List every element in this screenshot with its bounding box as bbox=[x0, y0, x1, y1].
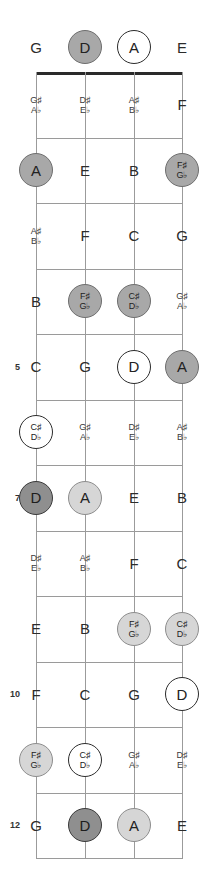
fret-wire-9 bbox=[36, 662, 183, 663]
note-label: F bbox=[31, 687, 40, 702]
note-fret0-string-G: G bbox=[19, 30, 53, 64]
nut bbox=[36, 72, 183, 75]
note-label: G bbox=[30, 818, 42, 833]
fret-wire-11 bbox=[36, 793, 183, 794]
note-label: F bbox=[80, 228, 89, 243]
note-fret8-string-A: F bbox=[117, 546, 151, 580]
string-A bbox=[134, 72, 135, 858]
note-label: G bbox=[176, 228, 188, 243]
note-label: B bbox=[177, 490, 187, 505]
note-fret12-string-D[interactable]: D bbox=[68, 808, 102, 842]
note-fret10-string-E[interactable]: D bbox=[165, 677, 199, 711]
note-label: F bbox=[177, 97, 186, 112]
note-fret10-string-G: F bbox=[19, 677, 53, 711]
note-fret6-string-D: G♯A♭ bbox=[68, 415, 102, 449]
note-label: G♯A♭ bbox=[176, 291, 188, 311]
note-fret7-string-G[interactable]: D bbox=[19, 481, 53, 515]
note-label: E bbox=[129, 490, 139, 505]
fret-number-5: 5 bbox=[0, 362, 20, 372]
note-fret5-string-A[interactable]: D bbox=[117, 350, 151, 384]
fret-wire-1 bbox=[36, 138, 183, 139]
note-label: A bbox=[80, 490, 90, 505]
note-label: F♯G♭ bbox=[30, 750, 41, 770]
note-label: C♯D♭ bbox=[31, 422, 42, 442]
note-fret6-string-G[interactable]: C♯D♭ bbox=[19, 415, 53, 449]
string-D bbox=[85, 72, 86, 858]
note-fret3-string-E: G bbox=[165, 219, 199, 253]
note-fret6-string-A: D♯E♭ bbox=[117, 415, 151, 449]
fret-number-12: 12 bbox=[0, 820, 20, 830]
fret-wire-5 bbox=[36, 400, 183, 401]
note-fret1-string-E: F bbox=[165, 88, 199, 122]
note-fret9-string-G: E bbox=[19, 612, 53, 646]
fret-wire-2 bbox=[36, 203, 183, 204]
note-label: A bbox=[129, 40, 139, 55]
note-label: C bbox=[129, 228, 140, 243]
note-label: B bbox=[80, 621, 90, 636]
note-label: C♯D♭ bbox=[177, 619, 188, 639]
note-fret0-string-A[interactable]: A bbox=[117, 30, 151, 64]
note-fret11-string-G[interactable]: F♯G♭ bbox=[19, 743, 53, 777]
note-label: D bbox=[129, 359, 140, 374]
note-fret4-string-E: G♯A♭ bbox=[165, 284, 199, 318]
note-fret5-string-E[interactable]: A bbox=[165, 350, 199, 384]
note-fret11-string-D[interactable]: C♯D♭ bbox=[68, 743, 102, 777]
note-fret6-string-E: A♯B♭ bbox=[165, 415, 199, 449]
note-fret1-string-G: G♯A♭ bbox=[19, 88, 53, 122]
note-label: F♯G♭ bbox=[128, 619, 139, 639]
note-fret0-string-E: E bbox=[165, 30, 199, 64]
note-label: B bbox=[129, 163, 139, 178]
note-label: C bbox=[177, 556, 188, 571]
fret-wire-10 bbox=[36, 727, 183, 728]
note-label: C bbox=[31, 359, 42, 374]
note-label: D bbox=[31, 490, 42, 505]
note-fret12-string-G: G bbox=[19, 808, 53, 842]
note-fret9-string-D: B bbox=[68, 612, 102, 646]
note-label: G bbox=[128, 687, 140, 702]
note-label: E bbox=[31, 621, 41, 636]
note-label: G♯A♭ bbox=[30, 95, 42, 115]
note-label: D♯E♭ bbox=[80, 95, 91, 115]
note-fret0-string-D[interactable]: D bbox=[68, 30, 102, 64]
note-fret11-string-E: D♯E♭ bbox=[165, 743, 199, 777]
note-fret4-string-D[interactable]: F♯G♭ bbox=[68, 284, 102, 318]
note-fret4-string-G: B bbox=[19, 284, 53, 318]
note-label: G♯A♭ bbox=[79, 422, 91, 442]
note-label: F♯G♭ bbox=[176, 160, 187, 180]
note-label: D bbox=[80, 818, 91, 833]
note-label: A♯B♭ bbox=[129, 95, 140, 115]
note-fret11-string-A: G♯A♭ bbox=[117, 743, 151, 777]
note-fret8-string-E: C bbox=[165, 546, 199, 580]
note-label: E bbox=[80, 163, 90, 178]
note-fret1-string-A: A♯B♭ bbox=[117, 88, 151, 122]
fret-wire-7 bbox=[36, 531, 183, 532]
note-fret2-string-E[interactable]: F♯G♭ bbox=[165, 153, 199, 187]
note-fret3-string-D: F bbox=[68, 219, 102, 253]
note-fret12-string-E: E bbox=[165, 808, 199, 842]
note-fret10-string-A: G bbox=[117, 677, 151, 711]
note-fret3-string-G: A♯B♭ bbox=[19, 219, 53, 253]
fret-wire-3 bbox=[36, 269, 183, 270]
note-label: D bbox=[177, 687, 188, 702]
note-fret8-string-G: D♯E♭ bbox=[19, 546, 53, 580]
note-label: C♯D♭ bbox=[80, 750, 91, 770]
note-fret4-string-A[interactable]: C♯D♭ bbox=[117, 284, 151, 318]
fret-wire-12 bbox=[36, 858, 183, 859]
fret-wire-6 bbox=[36, 465, 183, 466]
note-fret9-string-A[interactable]: F♯G♭ bbox=[117, 612, 151, 646]
note-fret2-string-G[interactable]: A bbox=[19, 153, 53, 187]
note-fret12-string-A[interactable]: A bbox=[117, 808, 151, 842]
note-label: G bbox=[30, 40, 42, 55]
note-fret2-string-D: E bbox=[68, 153, 102, 187]
note-fret7-string-D[interactable]: A bbox=[68, 481, 102, 515]
note-fret8-string-D: A♯B♭ bbox=[68, 546, 102, 580]
fret-wire-8 bbox=[36, 596, 183, 597]
note-fret7-string-A: E bbox=[117, 481, 151, 515]
note-fret5-string-D: G bbox=[68, 350, 102, 384]
note-fret10-string-D: C bbox=[68, 677, 102, 711]
note-label: E bbox=[177, 818, 187, 833]
note-fret9-string-E[interactable]: C♯D♭ bbox=[165, 612, 199, 646]
note-label: E bbox=[177, 40, 187, 55]
note-fret1-string-D: D♯E♭ bbox=[68, 88, 102, 122]
note-fret7-string-E: B bbox=[165, 481, 199, 515]
